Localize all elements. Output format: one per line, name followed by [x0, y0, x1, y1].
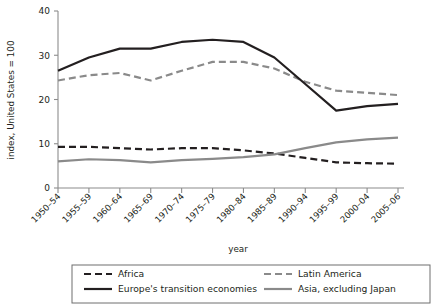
x-tick-label: 1980–84 — [215, 191, 248, 224]
y-axis-title: index, United States = 100 — [6, 40, 16, 159]
x-tick-label: 2005–06 — [369, 191, 402, 224]
x-axis-title: year — [228, 244, 248, 254]
legend-label: Europe's transition economies — [118, 283, 257, 294]
y-tick-label: 20 — [39, 95, 51, 105]
series-line — [58, 147, 398, 164]
y-axis-tick-labels: 010203040 — [39, 6, 51, 193]
x-tick-label: 1995–99 — [307, 191, 340, 224]
legend-label: Asia, excluding Japan — [298, 283, 396, 294]
x-tick-label: 1970–74 — [153, 191, 186, 224]
series-line — [58, 62, 398, 95]
x-axis-ticks — [58, 188, 398, 193]
x-tick-label: 1955–59 — [60, 191, 93, 224]
x-tick-label: 2000–04 — [338, 191, 371, 224]
chart-figure: 010203040 1950–541955–591960–641965–6919… — [0, 0, 434, 307]
y-tick-label: 10 — [39, 139, 51, 149]
series-layer — [58, 40, 398, 164]
series-line — [58, 40, 398, 111]
y-tick-label: 40 — [39, 6, 51, 16]
y-tick-label: 30 — [39, 51, 51, 61]
y-tick-label: 0 — [44, 183, 50, 193]
y-axis-ticks — [54, 11, 58, 188]
x-axis-tick-labels: 1950–541955–591960–641965–691970–741975–… — [29, 191, 402, 224]
legend-label: Latin America — [298, 268, 362, 279]
x-tick-label: 1950–54 — [29, 191, 62, 224]
x-tick-label: 1985–89 — [245, 191, 278, 224]
x-tick-label: 1960–64 — [91, 191, 124, 224]
x-tick-label: 1990–94 — [276, 191, 309, 224]
x-tick-label: 1975–79 — [184, 191, 217, 224]
legend-label: Africa — [118, 268, 144, 279]
x-tick-label: 1965–69 — [122, 191, 155, 224]
